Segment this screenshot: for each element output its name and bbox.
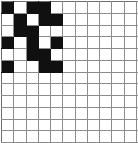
grid-cell-empty[interactable] bbox=[38, 72, 50, 84]
grid-cell-empty[interactable] bbox=[38, 37, 50, 49]
grid-cell-empty[interactable] bbox=[75, 107, 87, 119]
grid-cell-empty[interactable] bbox=[87, 107, 99, 119]
grid-cell-empty[interactable] bbox=[63, 119, 75, 131]
grid-cell-empty[interactable] bbox=[100, 49, 112, 61]
grid-cell-empty[interactable] bbox=[51, 119, 63, 131]
grid-cell-empty[interactable] bbox=[63, 37, 75, 49]
grid-cell-empty[interactable] bbox=[2, 119, 14, 131]
grid-cell-empty[interactable] bbox=[38, 107, 50, 119]
grid-cell-empty[interactable] bbox=[136, 107, 138, 119]
grid-cell-empty[interactable] bbox=[63, 96, 75, 108]
grid-cell-empty[interactable] bbox=[75, 72, 87, 84]
grid-cell-empty[interactable] bbox=[100, 13, 112, 25]
grid-cell-empty[interactable] bbox=[124, 96, 136, 108]
grid-cell-empty[interactable] bbox=[75, 49, 87, 61]
grid-cell-empty[interactable] bbox=[136, 2, 138, 14]
grid-cell-empty[interactable] bbox=[87, 84, 99, 96]
grid-cell-empty[interactable] bbox=[2, 49, 14, 61]
grid-cell-empty[interactable] bbox=[136, 49, 138, 61]
grid-cell-filled[interactable] bbox=[14, 25, 26, 37]
pixel-grid[interactable] bbox=[1, 1, 138, 143]
grid-cell-empty[interactable] bbox=[51, 96, 63, 108]
grid-cell-empty[interactable] bbox=[124, 72, 136, 84]
grid-cell-empty[interactable] bbox=[38, 131, 50, 143]
grid-cell-empty[interactable] bbox=[26, 13, 38, 25]
grid-cell-empty[interactable] bbox=[14, 49, 26, 61]
grid-cell-empty[interactable] bbox=[14, 37, 26, 49]
grid-cell-filled[interactable] bbox=[26, 25, 38, 37]
grid-cell-empty[interactable] bbox=[2, 25, 14, 37]
grid-cell-empty[interactable] bbox=[112, 119, 124, 131]
grid-cell-empty[interactable] bbox=[63, 72, 75, 84]
grid-cell-empty[interactable] bbox=[112, 84, 124, 96]
grid-cell-empty[interactable] bbox=[87, 49, 99, 61]
grid-cell-empty[interactable] bbox=[63, 2, 75, 14]
grid-cell-empty[interactable] bbox=[112, 72, 124, 84]
grid-cell-empty[interactable] bbox=[14, 84, 26, 96]
grid-cell-empty[interactable] bbox=[2, 72, 14, 84]
grid-cell-filled[interactable] bbox=[2, 2, 14, 14]
grid-cell-empty[interactable] bbox=[136, 13, 138, 25]
grid-cell-empty[interactable] bbox=[38, 84, 50, 96]
grid-cell-empty[interactable] bbox=[87, 72, 99, 84]
grid-cell-empty[interactable] bbox=[100, 84, 112, 96]
grid-cell-filled[interactable] bbox=[38, 2, 50, 14]
grid-cell-empty[interactable] bbox=[2, 13, 14, 25]
grid-cell-empty[interactable] bbox=[63, 13, 75, 25]
grid-cell-empty[interactable] bbox=[51, 25, 63, 37]
grid-cell-filled[interactable] bbox=[2, 60, 14, 72]
grid-cell-empty[interactable] bbox=[63, 131, 75, 143]
grid-cell-empty[interactable] bbox=[136, 25, 138, 37]
grid-cell-empty[interactable] bbox=[112, 37, 124, 49]
grid-cell-empty[interactable] bbox=[100, 37, 112, 49]
grid-cell-empty[interactable] bbox=[87, 13, 99, 25]
grid-cell-empty[interactable] bbox=[100, 2, 112, 14]
grid-cell-empty[interactable] bbox=[63, 84, 75, 96]
grid-cell-empty[interactable] bbox=[112, 107, 124, 119]
grid-cell-empty[interactable] bbox=[100, 131, 112, 143]
grid-cell-empty[interactable] bbox=[38, 119, 50, 131]
grid-cell-empty[interactable] bbox=[87, 96, 99, 108]
grid-cell-empty[interactable] bbox=[100, 25, 112, 37]
grid-cell-empty[interactable] bbox=[124, 60, 136, 72]
grid-cell-empty[interactable] bbox=[26, 84, 38, 96]
grid-cell-empty[interactable] bbox=[26, 96, 38, 108]
grid-cell-empty[interactable] bbox=[75, 2, 87, 14]
grid-cell-empty[interactable] bbox=[14, 131, 26, 143]
grid-cell-empty[interactable] bbox=[75, 37, 87, 49]
grid-cell-empty[interactable] bbox=[51, 49, 63, 61]
grid-cell-filled[interactable] bbox=[51, 13, 63, 25]
grid-cell-empty[interactable] bbox=[2, 84, 14, 96]
grid-cell-empty[interactable] bbox=[136, 84, 138, 96]
grid-cell-empty[interactable] bbox=[38, 96, 50, 108]
grid-cell-empty[interactable] bbox=[136, 119, 138, 131]
grid-cell-empty[interactable] bbox=[100, 72, 112, 84]
grid-cell-empty[interactable] bbox=[136, 96, 138, 108]
grid-cell-empty[interactable] bbox=[112, 2, 124, 14]
grid-cell-empty[interactable] bbox=[2, 131, 14, 143]
grid-cell-empty[interactable] bbox=[75, 84, 87, 96]
grid-cell-empty[interactable] bbox=[124, 119, 136, 131]
grid-cell-empty[interactable] bbox=[112, 96, 124, 108]
grid-cell-empty[interactable] bbox=[51, 2, 63, 14]
grid-cell-empty[interactable] bbox=[26, 60, 38, 72]
grid-cell-empty[interactable] bbox=[100, 96, 112, 108]
grid-cell-empty[interactable] bbox=[124, 131, 136, 143]
grid-cell-filled[interactable] bbox=[38, 60, 50, 72]
grid-cell-empty[interactable] bbox=[136, 37, 138, 49]
grid-cell-filled[interactable] bbox=[38, 49, 50, 61]
grid-cell-filled[interactable] bbox=[2, 37, 14, 49]
grid-cell-empty[interactable] bbox=[124, 2, 136, 14]
grid-cell-empty[interactable] bbox=[26, 107, 38, 119]
grid-cell-empty[interactable] bbox=[14, 2, 26, 14]
grid-cell-filled[interactable] bbox=[26, 2, 38, 14]
grid-cell-empty[interactable] bbox=[87, 131, 99, 143]
grid-cell-empty[interactable] bbox=[2, 96, 14, 108]
grid-cell-empty[interactable] bbox=[136, 131, 138, 143]
grid-cell-empty[interactable] bbox=[51, 84, 63, 96]
grid-cell-empty[interactable] bbox=[75, 25, 87, 37]
grid-cell-empty[interactable] bbox=[112, 25, 124, 37]
grid-cell-empty[interactable] bbox=[136, 72, 138, 84]
grid-cell-empty[interactable] bbox=[26, 119, 38, 131]
grid-cell-empty[interactable] bbox=[75, 60, 87, 72]
